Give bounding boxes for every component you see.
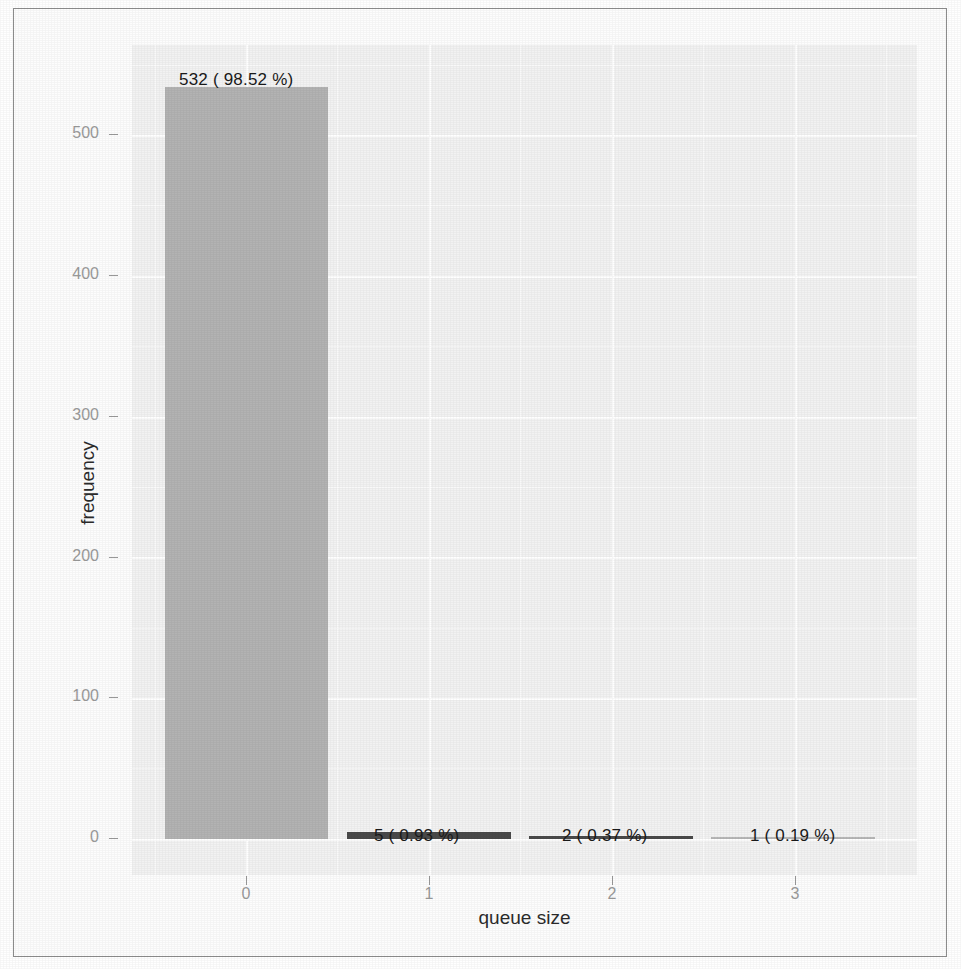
gridline-minor-v — [155, 45, 156, 875]
xtick-mark-3 — [795, 876, 796, 885]
bar-data-label-0: 532 ( 98.52 %) — [179, 70, 293, 90]
page-frame: 532 ( 98.52 %) 5 ( 0.93 %) 2 ( 0.37 %) 1… — [13, 8, 947, 957]
xtick-label-0: 0 — [242, 885, 251, 903]
xtick-mark-1 — [429, 876, 430, 885]
bar-data-label-2: 2 ( 0.37 %) — [562, 826, 647, 846]
xtick-label-2: 2 — [608, 885, 617, 903]
bar-category-0[interactable] — [165, 87, 328, 839]
ytick-mark-400 — [109, 275, 118, 276]
xtick-label-1: 1 — [425, 885, 434, 903]
gridline-minor-h — [132, 65, 917, 66]
chart-page: 532 ( 98.52 %) 5 ( 0.93 %) 2 ( 0.37 %) 1… — [0, 0, 961, 969]
ytick-mark-0 — [109, 838, 118, 839]
ytick-mark-200 — [109, 557, 118, 558]
gridline-minor-v — [886, 45, 887, 875]
x-axis-title: queue size — [132, 907, 917, 929]
plot-panel: 532 ( 98.52 %) 5 ( 0.93 %) 2 ( 0.37 %) 1… — [132, 45, 917, 875]
ytick-mark-500 — [109, 134, 118, 135]
gridline-major-v-3 — [795, 45, 797, 875]
ytick-label-0: 0 — [13, 828, 99, 846]
xtick-mark-0 — [246, 876, 247, 885]
gridline-minor-v — [337, 45, 338, 875]
y-axis-title: frequency — [77, 441, 99, 524]
ytick-label-100: 100 — [13, 687, 99, 705]
xtick-label-3: 3 — [791, 885, 800, 903]
gridline-major-v-1 — [429, 45, 431, 875]
ytick-mark-100 — [109, 697, 118, 698]
bar-data-label-3: 1 ( 0.19 %) — [750, 826, 835, 846]
ytick-mark-300 — [109, 416, 118, 417]
gridline-minor-v — [703, 45, 704, 875]
xtick-mark-2 — [612, 876, 613, 885]
ytick-label-500: 500 — [13, 124, 99, 142]
ytick-label-200: 200 — [13, 547, 99, 565]
gridline-major-v-2 — [612, 45, 614, 875]
gridline-minor-v — [520, 45, 521, 875]
bar-data-label-1: 5 ( 0.93 %) — [374, 826, 459, 846]
ytick-label-400: 400 — [13, 265, 99, 283]
ytick-label-300: 300 — [13, 406, 99, 424]
